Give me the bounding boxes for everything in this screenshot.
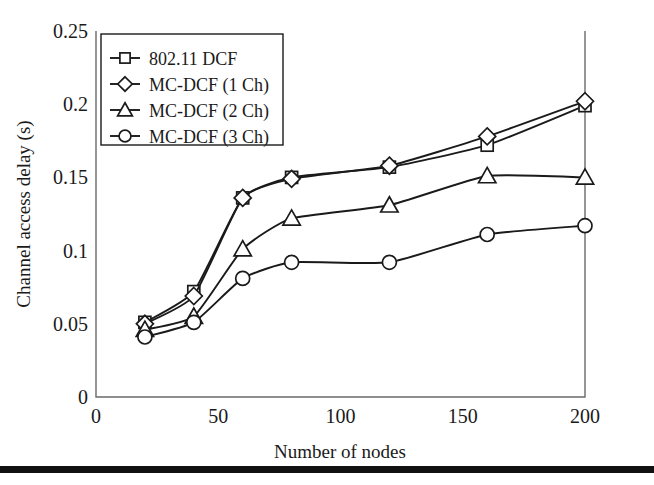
y-tick-label: 0.15 xyxy=(53,166,88,188)
x-tick-label: 100 xyxy=(326,405,356,427)
legend-item-label: 802.11 DCF xyxy=(149,49,237,69)
series-line xyxy=(145,226,585,337)
x-tick-label: 0 xyxy=(91,405,101,427)
x-tick-label: 150 xyxy=(448,405,478,427)
y-tick-label: 0.05 xyxy=(53,313,88,335)
circle-marker xyxy=(187,315,201,329)
circle-marker xyxy=(480,227,494,241)
figure-container: 00.050.10.150.20.25 050100150200 802.11 … xyxy=(0,0,654,485)
y-axis-tick-labels: 00.050.10.150.20.25 xyxy=(53,20,88,408)
legend-item-label: MC-DCF (3 Ch) xyxy=(149,127,269,148)
legend-item-label: MC-DCF (2 Ch) xyxy=(149,101,269,122)
legend: 802.11 DCFMC-DCF (1 Ch)MC-DCF (2 Ch)MC-D… xyxy=(101,34,283,148)
circle-marker xyxy=(138,330,152,344)
series-4 xyxy=(138,219,592,344)
x-axis-title: Number of nodes xyxy=(274,441,406,462)
square-marker xyxy=(120,53,130,63)
y-axis-title: Channel access delay (s) xyxy=(13,120,35,307)
bottom-rule-divider xyxy=(0,466,654,473)
circle-marker xyxy=(578,219,592,233)
circle-marker xyxy=(382,255,396,269)
channel-access-delay-line-chart: 00.050.10.150.20.25 050100150200 802.11 … xyxy=(0,0,654,466)
legend-item-label: MC-DCF (1 Ch) xyxy=(149,75,269,96)
y-tick-label: 0.1 xyxy=(63,240,88,262)
series-3 xyxy=(136,167,593,336)
y-tick-label: 0 xyxy=(78,386,88,408)
x-tick-label: 200 xyxy=(570,405,600,427)
circle-marker xyxy=(236,271,250,285)
circle-marker xyxy=(285,255,299,269)
x-axis-tick-labels: 050100150200 xyxy=(91,405,600,427)
y-tick-label: 0.2 xyxy=(63,93,88,115)
circle-marker xyxy=(119,130,131,142)
y-tick-label: 0.25 xyxy=(53,20,88,42)
x-tick-label: 50 xyxy=(208,405,228,427)
